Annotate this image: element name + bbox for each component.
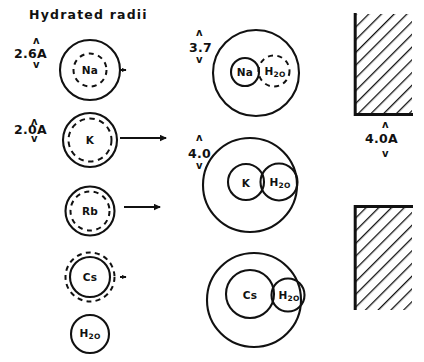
- figure-title: Hydrated radii: [29, 7, 148, 22]
- h2o-sub: 2O: [288, 294, 300, 303]
- h2o-sub: 2O: [274, 70, 286, 79]
- h2o-sub: 2O: [89, 332, 101, 341]
- dimension-na-hydrated-value: 3.7: [189, 40, 212, 55]
- h2o-sub: 2O: [279, 181, 291, 190]
- ion-label-h2o: H2O: [80, 327, 101, 341]
- lower-membrane-block: [354, 205, 413, 310]
- complex-na-h2o: [213, 30, 299, 116]
- complex-label-cs-water: H2O: [279, 289, 300, 303]
- caret-up-icon: ʌ: [196, 28, 203, 38]
- caret-down-icon: v: [196, 55, 203, 65]
- caret-down-icon: v: [382, 149, 389, 159]
- complex-label-na-water: H2O: [265, 65, 286, 79]
- dimension-k-hydrated-value: 4.0: [188, 146, 211, 161]
- ion-label-cs: Cs: [83, 271, 97, 283]
- complex-label-k: K: [242, 177, 250, 189]
- dimension-na-value: 2.6A: [14, 46, 47, 61]
- h2o-h: H: [279, 289, 288, 301]
- h2o-h: H: [265, 65, 274, 77]
- caret-up-icon: ʌ: [196, 133, 203, 143]
- caret-down-icon: v: [33, 60, 40, 70]
- caret-up-icon: ʌ: [382, 120, 389, 130]
- caret-down-icon: v: [196, 161, 203, 171]
- h2o-h: H: [80, 327, 89, 339]
- ion-label-rb: Rb: [82, 205, 98, 217]
- ion-label-na: Na: [82, 64, 98, 76]
- dimension-pore-value: 4.0A: [365, 131, 398, 146]
- upper-membrane-block: [354, 13, 413, 116]
- h2o-h: H: [270, 176, 279, 188]
- caret-up-icon: ʌ: [33, 36, 40, 46]
- complex-label-cs: Cs: [243, 289, 257, 301]
- complex-label-k-water: H2O: [270, 176, 291, 190]
- complex-label-na: Na: [237, 66, 253, 78]
- caret-down-icon: v: [31, 134, 38, 144]
- ion-label-k: K: [86, 134, 94, 146]
